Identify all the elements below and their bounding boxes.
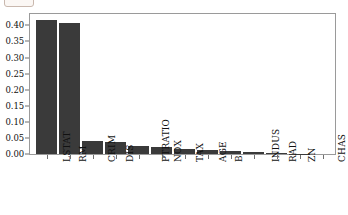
y-axis-tick-label: 0.10 — [5, 117, 24, 127]
y-axis-tick-label: 0.40 — [5, 20, 24, 30]
y-axis-tick-mark — [25, 105, 29, 106]
x-axis-tick-mark — [93, 155, 94, 159]
y-axis-tick-label: 0.20 — [5, 85, 24, 95]
x-axis-tick-mark — [254, 155, 255, 159]
x-axis-tick-mark — [162, 155, 163, 159]
bar-slot — [174, 14, 195, 154]
y-axis-tick-label: 0.30 — [5, 53, 24, 63]
x-axis-slot: PTRATIO — [128, 155, 149, 215]
bar-slot — [128, 14, 149, 154]
y-axis-tick-mark — [25, 154, 29, 155]
y-axis-tick-mark — [25, 121, 29, 122]
x-axis-slot: NOX — [151, 155, 172, 215]
y-axis-tick-mark — [25, 89, 29, 90]
y-axis-tick-label: 0.00 — [5, 149, 24, 159]
x-axis-tick-mark — [277, 155, 278, 159]
x-axis-slot: TAX — [174, 155, 195, 215]
bar-slot — [197, 14, 218, 154]
x-axis-slot: LSTAT — [36, 155, 57, 215]
x-axis-slot: AGE — [197, 155, 218, 215]
x-axis-tick-mark — [139, 155, 140, 159]
x-axis-slot: CRIM — [82, 155, 103, 215]
y-axis-tick-label: 0.35 — [5, 36, 24, 46]
x-axis-slot: CHAS — [312, 155, 333, 215]
x-axis-slot: B — [220, 155, 241, 215]
x-axis-tick-label: CHAS — [337, 134, 347, 162]
x-axis-slot: RAD — [266, 155, 287, 215]
bar-slot — [105, 14, 126, 154]
y-axis-tick-label: 0.25 — [5, 69, 24, 79]
x-axis-tick-mark — [116, 155, 117, 159]
bar-slot — [82, 14, 103, 154]
x-axis-tick-mark — [185, 155, 186, 159]
y-axis-tick-mark — [25, 25, 29, 26]
x-axis-slot: INDUS — [243, 155, 264, 215]
bars-container — [30, 14, 335, 154]
bar-slot — [312, 14, 333, 154]
x-axis-tick-mark — [208, 155, 209, 159]
x-axis-tick-mark — [70, 155, 71, 159]
x-axis-slot: ZN — [289, 155, 310, 215]
x-axis-tick-mark — [300, 155, 301, 159]
y-axis-tick-label: 0.15 — [5, 101, 24, 111]
bar-slot — [36, 14, 57, 154]
bar — [36, 20, 57, 154]
x-axis-tick-mark — [231, 155, 232, 159]
y-axis-tick-label: 0.05 — [5, 133, 24, 143]
bar-slot — [289, 14, 310, 154]
x-axis: LSTATRMCRIMDISPTRATIONOXTAXAGEBINDUSRADZ… — [30, 155, 335, 215]
y-axis-tick-mark — [25, 137, 29, 138]
x-axis-slot: DIS — [105, 155, 126, 215]
x-axis-tick-mark — [323, 155, 324, 159]
y-axis-tick-mark — [25, 41, 29, 42]
bar — [243, 152, 264, 154]
bar-slot — [243, 14, 264, 154]
y-axis-tick-mark — [25, 57, 29, 58]
feature-importance-bar-chart: 0.400.350.300.250.200.150.100.050.00 LST… — [0, 0, 348, 215]
y-axis: 0.400.350.300.250.200.150.100.050.00 — [0, 13, 29, 155]
x-axis-tick-mark — [47, 155, 48, 159]
bar-slot — [220, 14, 241, 154]
y-axis-tick-mark — [25, 73, 29, 74]
x-axis-slot: RM — [59, 155, 80, 215]
